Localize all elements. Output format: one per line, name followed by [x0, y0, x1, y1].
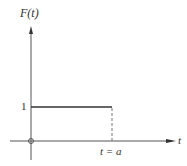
y-axis-label: F(t) [20, 6, 39, 21]
level-label: 1 [21, 100, 27, 112]
x-axis-label: t [178, 134, 181, 146]
marker-label: t = a [100, 145, 121, 157]
x-axis-arrow-icon [166, 139, 176, 143]
plot-canvas [0, 0, 187, 166]
y-axis-arrow-icon [29, 26, 33, 34]
